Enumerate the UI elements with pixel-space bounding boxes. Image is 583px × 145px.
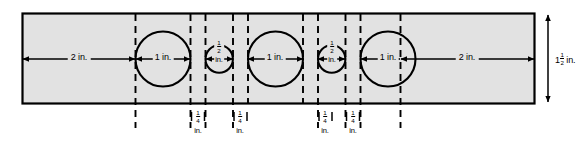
fraction-quarter-4: 1 4	[351, 110, 355, 124]
dimension-label-right-margin: 2 in.	[456, 52, 479, 62]
fraction-quarter-3: 1 4	[323, 110, 327, 124]
dimension-label-hole-3: 1 in.	[265, 52, 286, 62]
fraction-quarter-1: 1 4	[196, 110, 200, 124]
gap-label-mid-right: 1 4 in.	[321, 110, 329, 135]
dimension-label-hole-2: 1 2 in.	[214, 40, 224, 64]
gap-ticks	[192, 112, 360, 121]
unit-label-hole-2: in.	[215, 55, 223, 64]
fraction-half-right: 1 2	[330, 40, 334, 54]
dimension-label-left-margin: 2 in.	[68, 52, 91, 62]
gap-label-right: 1 4 in.	[349, 110, 357, 135]
gap-label-mid-left: 1 4 in.	[236, 110, 244, 135]
unit-label-hole-4: in.	[328, 55, 336, 64]
gap-unit-left: in.	[194, 126, 202, 135]
fraction-one-half-height: 1 2	[560, 52, 564, 66]
height-unit: in.	[566, 55, 575, 65]
plate-height-label: 1 1 2 in.	[555, 52, 575, 66]
dimension-label-hole-1: 1 in.	[153, 52, 174, 62]
technical-drawing: 2 in. 1 in. 1 2 in. 1 in. 1 2 in. 1 in. …	[0, 0, 583, 145]
gap-unit-mid-left: in.	[236, 126, 244, 135]
gap-unit-mid-right: in.	[321, 126, 329, 135]
dimension-label-hole-4: 1 2 in.	[327, 40, 337, 64]
gap-label-left: 1 4 in.	[194, 110, 202, 135]
fraction-quarter-2: 1 4	[238, 110, 242, 124]
dimension-label-hole-5: 1 in.	[378, 52, 399, 62]
drawing-canvas	[0, 0, 583, 145]
fraction-half-left: 1 2	[217, 40, 221, 54]
gap-unit-right: in.	[349, 126, 357, 135]
